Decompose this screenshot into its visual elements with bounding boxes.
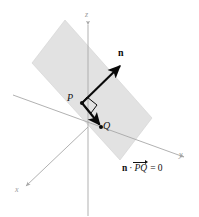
axis-z-label: z <box>85 11 88 19</box>
overbar-arrow-icon <box>145 160 148 164</box>
axis-x <box>26 127 88 186</box>
figure-canvas <box>0 0 199 217</box>
equation-pq-segment: PQ <box>134 163 147 174</box>
overbar-line <box>133 162 145 163</box>
equation-normal-symbol: n <box>122 163 127 173</box>
axis-x-label: x <box>15 186 19 194</box>
equation-dot-operator: · <box>129 163 132 173</box>
vector-plane-figure: z y x n P Q n·PQ= 0 <box>0 0 199 217</box>
normal-vector-label: n <box>118 48 124 58</box>
point-p-dot <box>80 101 84 105</box>
equation-equals-zero: = 0 <box>150 163 162 173</box>
plane-equation: n·PQ= 0 <box>122 163 163 174</box>
point-p-label: P <box>67 93 73 103</box>
point-q-label: Q <box>103 121 110 131</box>
equation-segment-text: PQ <box>134 163 147 173</box>
axis-y-label: y <box>179 151 183 159</box>
